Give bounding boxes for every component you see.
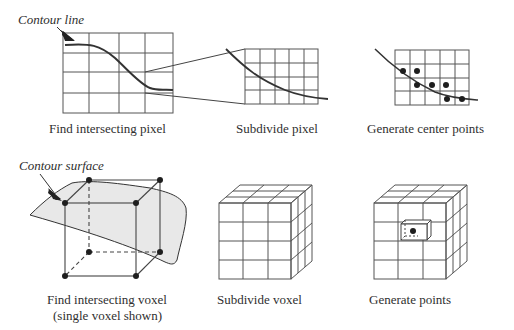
center-points-grid <box>395 50 469 105</box>
zoom-line-bottom <box>145 93 245 104</box>
subdivided-voxel <box>219 185 312 279</box>
caption-subdivide-pixel: Subdivide pixel <box>236 121 318 136</box>
caption-center-points: Generate center points <box>367 121 484 136</box>
caption-find-pixel: Find intersecting pixel <box>49 121 166 136</box>
caption-find-voxel-line2: (single voxel shown) <box>53 308 162 323</box>
contour-line-subdivided <box>226 49 328 99</box>
generated-point <box>410 228 416 234</box>
highlighted-subvoxel <box>401 220 431 240</box>
annotation-contour-line: Contour line <box>18 12 84 27</box>
arrow-pointer-icon <box>57 27 75 41</box>
annotation-contour-surface: Contour surface <box>19 158 104 173</box>
caption-generate-points: Generate points <box>369 292 451 307</box>
contour-line-points <box>375 49 478 100</box>
caption-subdivide-voxel: Subdivide voxel <box>217 292 302 307</box>
caption-find-voxel-line1: Find intersecting voxel <box>47 292 167 307</box>
